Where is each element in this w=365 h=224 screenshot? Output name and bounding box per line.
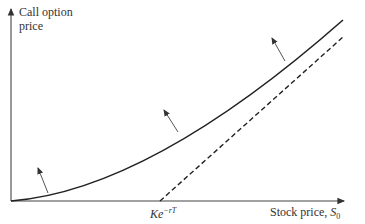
option-price-diagram — [0, 0, 365, 224]
x-axis-label-text: Stock price, — [270, 205, 330, 219]
y-axis-label-line1: Call option — [19, 5, 73, 19]
arrow-icon — [38, 168, 48, 193]
x-axis-label-sub: 0 — [336, 212, 340, 221]
x-axis-label: Stock price, S0 — [270, 205, 340, 224]
arrow-icon — [272, 38, 285, 61]
y-axis-label-line2: price — [19, 19, 73, 33]
lower-bound-line — [160, 37, 343, 201]
strike-label-base: Ke — [150, 207, 163, 221]
strike-discount-label: Ke−rT — [150, 204, 176, 221]
upward-arrows — [38, 38, 285, 193]
y-axis-label: Call option price — [19, 5, 73, 33]
strike-label-exponent: −rT — [163, 206, 176, 215]
call-price-curve — [11, 20, 343, 201]
arrow-icon — [164, 110, 178, 132]
